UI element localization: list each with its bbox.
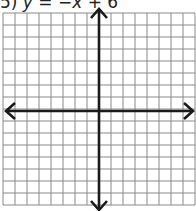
coordinate-plane[interactable] (0, 0, 196, 211)
